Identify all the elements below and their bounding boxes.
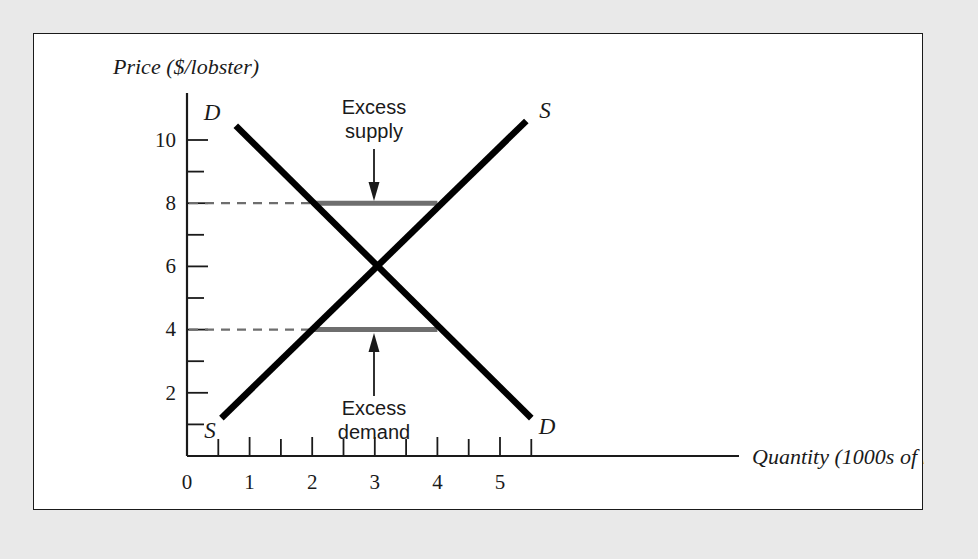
x-tick-label-0: 0: [182, 470, 193, 494]
x-tick-label-4: 4: [432, 470, 443, 494]
supply-demand-chart: D S S D Excess supply Excess demand 10 8…: [34, 34, 924, 511]
excess-demand-label-line2: demand: [338, 421, 410, 443]
y-tick-label-8: 8: [166, 191, 177, 215]
excess-demand-label-line1: Excess: [342, 397, 406, 419]
figure-frame: D S S D Excess supply Excess demand 10 8…: [33, 33, 923, 510]
demand-label-top: D: [203, 100, 221, 125]
y-tick-label-6: 6: [166, 254, 177, 278]
y-axis-title: Price ($/lobster): [112, 54, 259, 79]
excess-supply-label-line2: supply: [345, 120, 403, 142]
demand-curve: [236, 126, 532, 418]
y-tick-label-10: 10: [155, 128, 176, 152]
y-tick-label-4: 4: [166, 317, 177, 341]
y-tick-label-2: 2: [166, 381, 177, 405]
demand-label-bottom: D: [538, 414, 556, 439]
x-tick-label-2: 2: [307, 470, 318, 494]
excess-supply-label-line1: Excess: [342, 96, 406, 118]
x-tick-label-5: 5: [495, 470, 506, 494]
supply-label-top: S: [539, 98, 551, 123]
x-axis-title: Quantity (1000s of lobsters/day): [752, 444, 924, 469]
x-tick-label-3: 3: [370, 470, 381, 494]
excess-supply-arrow-head: [369, 182, 380, 201]
supply-label-bottom: S: [204, 418, 216, 443]
x-tick-label-1: 1: [244, 470, 255, 494]
excess-demand-arrow-head: [369, 333, 380, 352]
